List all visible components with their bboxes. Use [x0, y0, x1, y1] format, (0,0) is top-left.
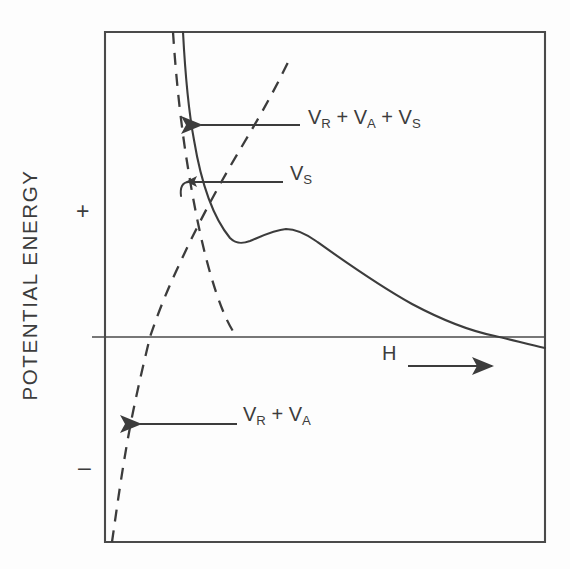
label-vrva-sub1: R [256, 413, 266, 428]
label-total-base: V [308, 106, 321, 128]
label-total-sub3: S [412, 116, 421, 131]
potential-energy-diagram: POTENTIAL ENERGY + – VR + VA + VS VS VR … [0, 0, 570, 569]
diagram-canvas [0, 0, 570, 569]
label-vs-sub1: S [303, 172, 312, 187]
label-vrva-sub2: A [302, 413, 311, 428]
label-total-sub1: R [321, 116, 331, 131]
label-total-energy: VR + VA + VS [308, 107, 421, 130]
y-tick-negative: – [78, 456, 91, 479]
label-h-axis: H [382, 343, 396, 363]
label-total-plus2: + V [376, 106, 412, 128]
total-energy-curve [183, 32, 545, 348]
label-total-sub2: A [367, 116, 376, 131]
label-vs: VS [290, 163, 312, 186]
label-total-plus1: + V [331, 106, 367, 128]
vrva-curve [112, 58, 290, 542]
label-vrva-base: V [243, 403, 256, 425]
label-vs-base: V [290, 162, 303, 184]
y-tick-positive: + [76, 200, 89, 223]
label-vrva: VR + VA [243, 404, 311, 427]
label-vrva-plus1: + V [266, 403, 302, 425]
